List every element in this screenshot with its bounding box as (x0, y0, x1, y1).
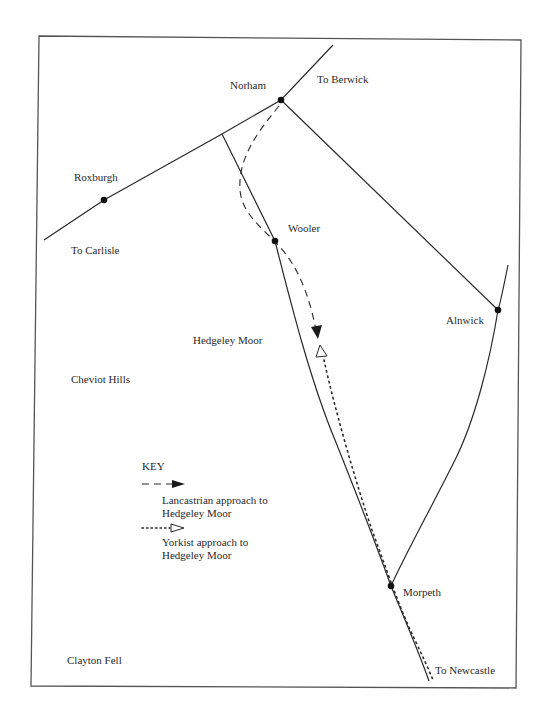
yorkist-route (324, 360, 433, 680)
key-lancastrian-label-line2: Hedgeley Moor (162, 507, 231, 520)
key-lancastrian-label-line1: Lancastrian approach to (162, 494, 268, 507)
yorkist-arrowhead-icon (316, 345, 327, 357)
place-label-morpeth: Morpeth (403, 586, 441, 599)
direction-label-newcastle: To Newcastle (435, 664, 495, 677)
key-yorkist-label-line1: Yorkist approach to (162, 536, 248, 549)
lancastrian-route (240, 106, 316, 330)
key-lancastrian-arrow-icon (172, 480, 185, 488)
road-wooler-newcastle (222, 134, 429, 681)
place-label-roxburgh: Roxburgh (74, 171, 118, 184)
region-label-cheviot-hills: Cheviot Hills (71, 373, 130, 386)
key-yorkist-label-line2: Hedgeley Moor (162, 549, 231, 562)
town-dot-alnwick (495, 307, 502, 314)
lancastrian-arrowhead-icon (311, 325, 322, 339)
town-dot-roxburgh (101, 197, 108, 204)
place-label-wooler: Wooler (288, 222, 320, 235)
direction-label-carlisle: To Carlisle (71, 244, 119, 257)
key-title: KEY (142, 460, 165, 473)
town-dot-norham (278, 97, 285, 104)
town-dot-morpeth (388, 583, 395, 590)
key-yorkist-arrow-icon (171, 524, 184, 532)
road-carlisle-berwick (44, 45, 333, 240)
place-label-norham: Norham (230, 79, 266, 92)
direction-label-berwick: To Berwick (317, 73, 368, 86)
road-norham-alnwick (281, 100, 498, 310)
town-dot-wooler (272, 238, 279, 245)
place-label-alnwick: Alnwick (446, 314, 484, 327)
region-label-clayton-fell: Clayton Fell (67, 654, 122, 667)
region-label-hedgeley-moor: Hedgeley Moor (193, 334, 262, 347)
battle-map (0, 0, 541, 711)
map-frame (31, 36, 521, 688)
